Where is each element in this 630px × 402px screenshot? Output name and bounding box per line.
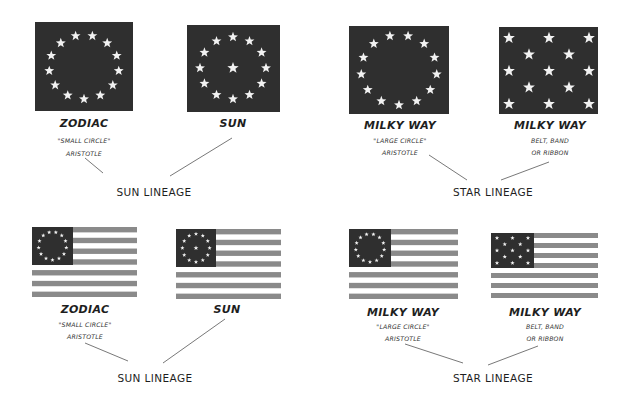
connector-line — [501, 162, 549, 180]
connector-lines — [0, 0, 630, 402]
connector-line — [488, 346, 538, 365]
connector-line — [405, 344, 463, 363]
connector-line — [163, 319, 225, 363]
connector-line — [85, 343, 128, 361]
connector-line — [429, 155, 467, 180]
connector-line — [85, 158, 103, 173]
connector-line — [170, 138, 232, 176]
